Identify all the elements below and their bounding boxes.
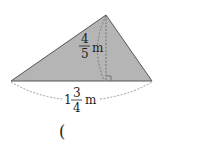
svg-text:5: 5 [81,47,89,61]
svg-text:3: 3 [73,86,81,100]
answer-paren: ( [59,124,65,140]
svg-text:4: 4 [81,32,89,46]
base-brace-right [100,82,152,99]
svg-text:4: 4 [73,101,81,115]
svg-text:1: 1 [64,93,72,107]
base-label: 1 3 4 m [64,86,97,115]
svg-text:m: m [92,41,104,55]
svg-text:m: m [85,93,97,107]
triangle-diagram: 4 5 m 1 3 4 m [0,0,204,145]
base-brace-left [11,82,62,99]
